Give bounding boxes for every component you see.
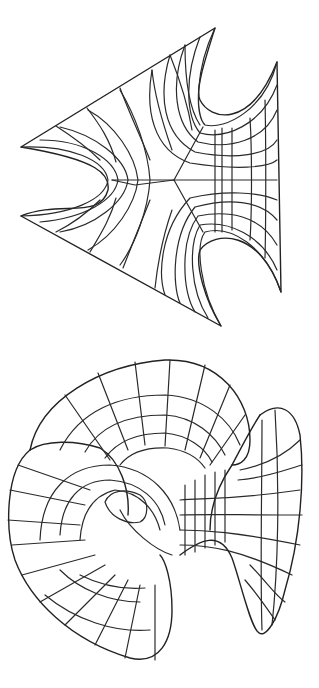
trinoid-planar-figure — [0, 0, 319, 340]
trinoid-perspective-wireframe — [0, 340, 319, 688]
trinoid-planar-wireframe — [0, 0, 319, 340]
trinoid-perspective-figure — [0, 340, 319, 688]
